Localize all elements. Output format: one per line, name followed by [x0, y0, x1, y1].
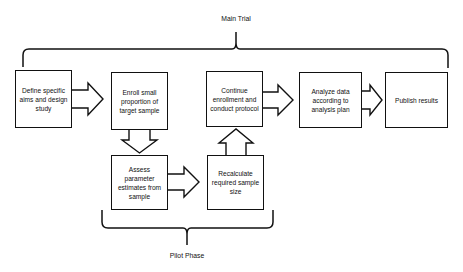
arrow-assess-to-recalc [168, 167, 199, 197]
arrow-recalc-to-continue [219, 129, 253, 155]
main-trial-label: Main Trial [196, 15, 276, 22]
node-enroll-small: Enroll small proportion of target sample [111, 72, 168, 130]
main-trial-brace [23, 32, 448, 68]
node-recalculate-sample-size: Recalculate required sample size [207, 155, 264, 210]
node-label: Continue enrollment and conduct protocol [209, 86, 260, 113]
pilot-phase-brace [102, 210, 273, 245]
node-label: Enroll small proportion of target sample [114, 88, 165, 115]
diagram-canvas [0, 0, 463, 272]
node-analyze-data: Analyze data according to analysis plan [299, 72, 362, 128]
node-label: Define specific aims and design study [18, 86, 69, 113]
node-define-aims: Define specific aims and design study [15, 70, 72, 128]
arrow-define-to-enroll [72, 83, 103, 115]
node-continue-enrollment: Continue enrollment and conduct protocol [206, 71, 263, 127]
arrow-enroll-to-assess [122, 130, 157, 153]
pilot-phase-label: Pilot Phase [147, 252, 227, 259]
node-assess-parameters: Assess parameter estimates from sample [111, 155, 168, 210]
node-label: Recalculate required sample size [210, 169, 261, 196]
arrow-analyze-to-publish [362, 85, 382, 115]
node-label: Assess parameter estimates from sample [114, 165, 165, 201]
node-label: Publish results [395, 96, 438, 105]
node-publish-results: Publish results [385, 72, 448, 128]
arrow-continue-to-analyze [263, 85, 293, 115]
node-label: Analyze data according to analysis plan [302, 87, 359, 114]
